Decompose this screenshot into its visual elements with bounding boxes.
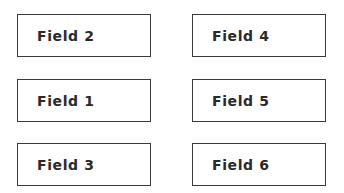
field-box-3[interactable]: Field 3 [17,143,151,186]
field-label: Field 3 [18,157,95,173]
field-label: Field 6 [193,157,270,173]
field-box-2[interactable]: Field 2 [17,14,151,57]
field-box-1[interactable]: Field 1 [17,79,151,122]
field-box-5[interactable]: Field 5 [192,79,326,122]
field-label: Field 2 [18,28,95,44]
field-label: Field 1 [18,93,95,109]
field-label: Field 5 [193,93,270,109]
field-box-4[interactable]: Field 4 [192,14,326,57]
field-label: Field 4 [193,28,270,44]
field-box-6[interactable]: Field 6 [192,143,326,186]
